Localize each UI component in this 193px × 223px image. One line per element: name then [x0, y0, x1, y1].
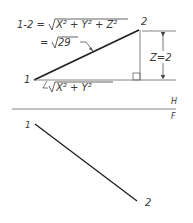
formula-radicand: X² + Y² + Z² [55, 19, 117, 30]
formula-line2-prefix: = [40, 37, 48, 48]
formula-line2-radicand: 29 [58, 37, 71, 48]
point-1-label-top: 1 [24, 74, 30, 85]
base-radicand: X² + Y² [55, 82, 92, 93]
true-length-diagram: Z=2 1-2 = X² + Y² + Z² 2 = 29 1 X² + Y² … [0, 0, 193, 223]
right-angle-marker [133, 73, 140, 80]
point-1-label-bottom: 1 [25, 120, 31, 130]
fold-label-h: H [171, 97, 177, 106]
z-dimension-label: Z=2 [149, 52, 172, 63]
point-2-label-bottom: 2 [145, 197, 151, 208]
formula-lhs: 1-2 = [17, 19, 45, 30]
fold-label-f: F [171, 112, 176, 121]
true-length-line [34, 30, 139, 80]
front-view-line [35, 124, 137, 201]
base-leader [43, 81, 48, 88]
point-2-label-top: 2 [141, 16, 147, 27]
